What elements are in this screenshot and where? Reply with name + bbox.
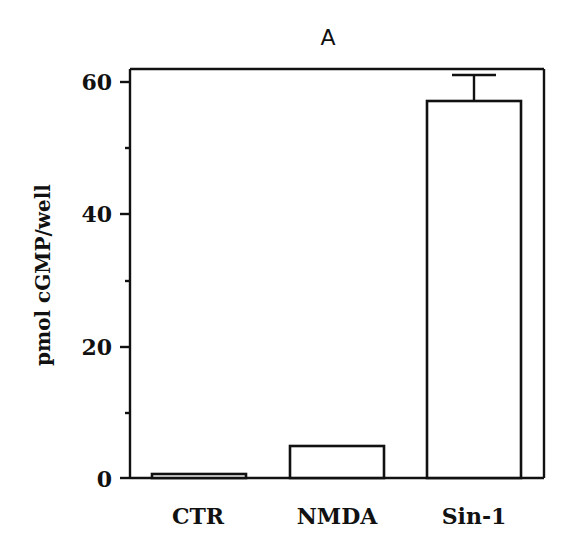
chart-title: A: [320, 25, 335, 50]
x-category-labels: CTR NMDA Sin-1: [172, 503, 506, 529]
tick-label-60: 60: [81, 69, 112, 95]
tick-label-40: 40: [81, 201, 112, 227]
category-label-sin1: Sin-1: [442, 503, 507, 529]
y-axis-label: pmol cGMP/well: [31, 184, 55, 366]
bar-sin1: [427, 101, 521, 478]
bar-nmda: [290, 446, 384, 478]
error-bar-sin1: [452, 75, 496, 101]
tick-label-20: 20: [81, 334, 112, 360]
y-tick-labels: 60 40 20 0: [81, 69, 112, 492]
chart-canvas: A pmol cGMP/well 60 40 20 0: [0, 0, 570, 547]
bar-ctr: [152, 474, 246, 478]
category-label-nmda: NMDA: [297, 503, 379, 529]
bars: [152, 101, 521, 478]
tick-label-0: 0: [97, 466, 112, 492]
category-label-ctr: CTR: [172, 503, 225, 529]
